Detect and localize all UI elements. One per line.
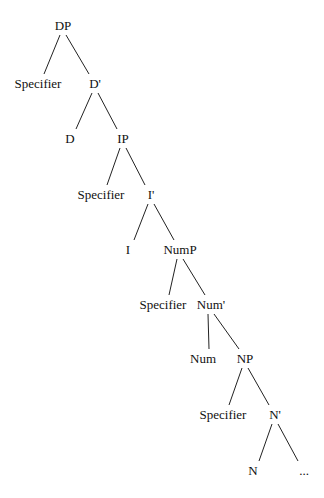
tree-edge-nbar-n	[259, 424, 272, 461]
tree-node-num: Num	[190, 351, 216, 366]
tree-node-dp: DP	[55, 18, 72, 33]
tree-node-spec3: Specifier	[140, 297, 188, 312]
tree-node-np: NP	[237, 351, 254, 366]
tree-node-ip: IP	[117, 131, 129, 146]
tree-nodes: DPSpecifierD'DIPSpecifierI'INumPSpecifie…	[15, 18, 309, 478]
tree-node-n: N	[248, 463, 258, 478]
syntax-tree: DPSpecifierD'DIPSpecifierI'INumPSpecifie…	[0, 0, 324, 498]
tree-node-numbar: Num'	[197, 297, 225, 312]
tree-edge-ibar-nump	[154, 204, 174, 240]
tree-node-d: D	[65, 131, 74, 146]
tree-edge-dbar-d	[76, 93, 92, 129]
tree-edge-nbar-ellipsis	[278, 424, 298, 461]
tree-node-nump: NumP	[163, 242, 196, 257]
tree-edge-nump-numbar	[183, 259, 205, 295]
tree-edge-nump-spec3	[169, 259, 177, 295]
tree-node-i: I	[126, 242, 130, 257]
tree-edge-ip-spec2	[107, 148, 120, 185]
tree-node-nbar: N'	[269, 407, 281, 422]
tree-edge-dp-dbar	[66, 35, 89, 74]
tree-edge-ibar-i	[134, 204, 148, 240]
tree-node-ellipsis: ...	[299, 463, 309, 478]
tree-node-ibar: I'	[148, 187, 155, 202]
tree-edge-numbar-num	[208, 314, 209, 349]
tree-edge-np-spec4	[229, 368, 242, 405]
tree-node-dbar: D'	[89, 76, 101, 91]
tree-edge-dp-spec1	[44, 35, 60, 74]
tree-edge-numbar-np	[214, 314, 239, 349]
tree-node-spec1: Specifier	[15, 76, 63, 91]
tree-edge-np-nbar	[248, 368, 269, 405]
tree-edge-dbar-ip	[98, 93, 117, 129]
tree-node-spec4: Specifier	[200, 407, 248, 422]
tree-node-spec2: Specifier	[78, 187, 126, 202]
tree-edge-ip-ibar	[126, 148, 145, 185]
